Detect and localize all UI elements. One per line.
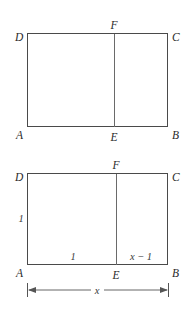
lower-vertex-label-C: C xyxy=(172,171,180,183)
upper-rectangle-outline xyxy=(28,34,168,127)
width-dimension-group: x xyxy=(28,283,169,297)
dimension-arrowhead-right xyxy=(160,287,168,293)
lower-midpoint-label-F: F xyxy=(111,159,120,171)
figure-canvas: D C A B F E D C A B F E 1 1 x − 1 xyxy=(0,0,193,321)
dimension-arrowhead-left xyxy=(28,287,36,293)
measure-label-left-height: 1 xyxy=(18,213,23,224)
lower-vertex-label-B: B xyxy=(172,267,179,279)
upper-vertex-label-D: D xyxy=(14,31,24,43)
upper-vertex-label-C: C xyxy=(172,31,180,43)
upper-rectangle-group: D C A B F E xyxy=(14,19,180,143)
lower-vertex-label-A: A xyxy=(15,267,24,279)
measure-label-left-segment: 1 xyxy=(70,251,75,262)
lower-rectangle-group: D C A B F E 1 1 x − 1 xyxy=(14,159,180,281)
upper-midpoint-label-E: E xyxy=(109,131,117,143)
upper-vertex-label-A: A xyxy=(15,129,24,141)
geometry-figure: D C A B F E D C A B F E 1 1 x − 1 xyxy=(0,0,193,321)
lower-vertex-label-D: D xyxy=(14,171,24,183)
lower-midpoint-label-E: E xyxy=(111,269,119,281)
dimension-label-total-width: x xyxy=(94,285,100,296)
upper-midpoint-label-F: F xyxy=(109,19,118,31)
measure-label-right-segment: x − 1 xyxy=(129,251,152,262)
upper-vertex-label-B: B xyxy=(172,129,179,141)
